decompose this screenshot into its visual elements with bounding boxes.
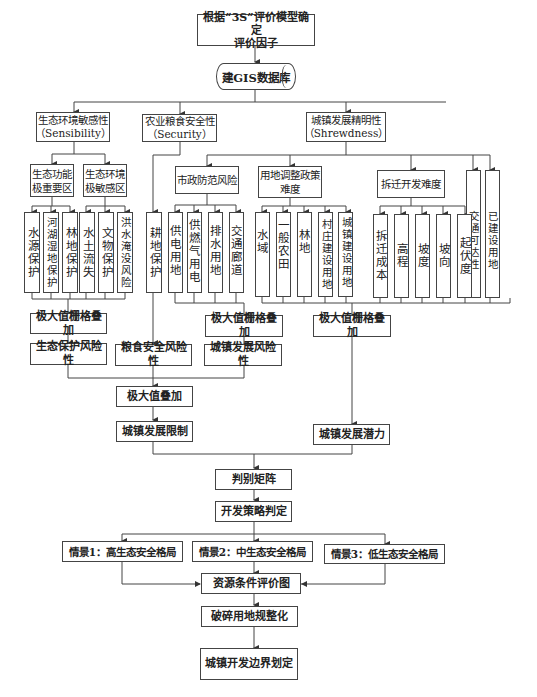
scenario-high: 情景1：高生态安全格局 — [62, 541, 183, 562]
scenario-medium: 情景2：中生态安全格局 — [192, 541, 313, 562]
factor-wetland: 河湖湿地保护 — [43, 212, 59, 293]
factor-water-area: 水域 — [255, 212, 270, 297]
factor-farmland: 耕地保护 — [146, 212, 162, 293]
factor-forest: 林地保护 — [62, 212, 78, 293]
scenario-low: 情景3：低生态安全格局 — [324, 544, 445, 564]
category-security: 农业粮食安全性 （Security） — [142, 114, 217, 142]
factor-gas-power: 供燃气用电 — [187, 212, 202, 293]
sub-land-policy: 用地调整政策 难度 — [258, 166, 322, 198]
urban-limit: 城镇发展限制 — [116, 421, 193, 442]
factor-relief: 起伏度 — [457, 214, 472, 298]
sub-eco-sensitive: 生态环境 极敏感区 — [83, 164, 127, 197]
factor-elevation: 高程 — [394, 214, 409, 298]
category-shrewdness: 城镇发展精明性 （Shrewdness） — [306, 112, 386, 142]
factor-traffic-corridor: 交通廊道 — [229, 212, 244, 293]
risk-eco: 生态保护风险性 — [30, 343, 107, 365]
factor-flood-risk: 洪水淹没风险 — [117, 212, 133, 293]
urban-potential: 城镇发展潜力 — [313, 424, 390, 445]
risk-food: 粮食安全风险性 — [115, 344, 192, 366]
overlay-potential: 极大值栅格叠加 — [313, 315, 391, 337]
development-strategy: 开发策略判定 — [215, 501, 292, 522]
category-sensibility: 生态环境敏感性 （Sensibility） — [36, 112, 110, 142]
gis-database: 建GIS数据库 — [216, 63, 296, 90]
factor-forest-land: 林地 — [297, 212, 312, 297]
factor-water-source: 水源保护 — [24, 212, 40, 293]
resource-evaluation-map: 资源条件评价图 — [201, 573, 301, 594]
sub-municipal-risk: 市政防范风险 — [175, 166, 239, 194]
overlay-eco: 极大值栅格叠加 — [30, 313, 107, 334]
factor-general-farmland: 一般农田 — [276, 212, 291, 297]
factor-slope: 坡度 — [415, 214, 430, 298]
sub-relocation: 拆迁开发难度 — [377, 170, 445, 198]
overlay-municipal: 极大值栅格叠加 — [205, 315, 283, 337]
factor-village-land: 村庄建设用地 — [318, 212, 333, 297]
max-overlay: 极大值叠加 — [116, 386, 193, 407]
factor-soil-erosion: 水土流失 — [79, 212, 95, 293]
factor-town-land: 城镇建设用地 — [338, 212, 353, 297]
flowchart: 根据“3S”评价模型确定 评价因子 建GIS数据库 生态环境敏感性 （Sensi… — [0, 0, 537, 697]
factor-drainage-land: 排水用地 — [208, 212, 223, 293]
boundary-delineation: 城镇开发边界划定 — [200, 648, 298, 680]
factor-relics: 文物保护 — [98, 212, 114, 293]
factor-relocation-cost: 拆迁成本 — [373, 214, 388, 298]
fragment-regularization: 破碎用地规整化 — [201, 606, 298, 627]
sub-eco-important: 生态功能 极重要区 — [30, 164, 74, 197]
judgment-matrix: 判别矩阵 — [215, 469, 292, 490]
start-box: 根据“3S”评价模型确定 评价因子 — [197, 14, 315, 46]
factor-built-land: 已建设用地 — [485, 170, 500, 298]
factor-power-land: 供电用地 — [168, 212, 183, 293]
factor-aspect: 坡向 — [436, 214, 451, 298]
risk-urban: 城镇发展风险性 — [204, 344, 282, 366]
